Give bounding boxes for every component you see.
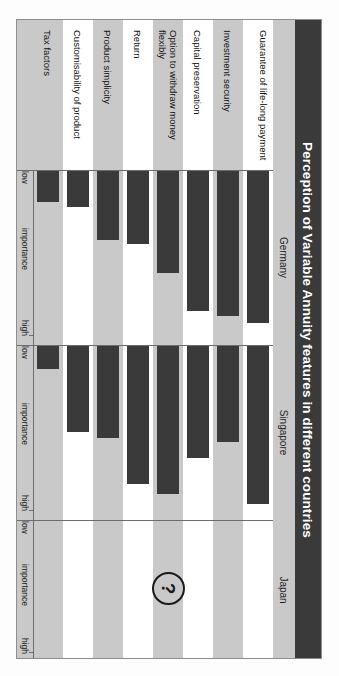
axis-caption-singapore: low importance high bbox=[16, 345, 30, 520]
bar-singapore-6 bbox=[67, 346, 89, 432]
axis-caption-germany: low importance high bbox=[16, 170, 30, 345]
panel-germany: low importance high bbox=[16, 170, 273, 345]
axis-label-high: high bbox=[20, 320, 30, 336]
bar-germany-3 bbox=[157, 171, 179, 273]
bar-singapore-0 bbox=[247, 346, 269, 504]
axis-label-low: low bbox=[20, 521, 30, 534]
axis-label-importance: importance bbox=[20, 228, 30, 270]
bar-germany-7 bbox=[37, 171, 59, 202]
axis-label-importance: importance bbox=[20, 403, 30, 445]
rotated-slide-wrapper: Perception of Variable Annuity features … bbox=[16, 19, 322, 659]
scan-page: Perception of Variable Annuity features … bbox=[0, 0, 339, 676]
panel-japan: ? low importance high bbox=[16, 520, 273, 659]
bar-singapore-4 bbox=[127, 346, 149, 484]
country-header-strip: Germany Singapore Japan bbox=[273, 170, 295, 659]
bar-singapore-1 bbox=[217, 346, 239, 442]
panel-separator bbox=[16, 345, 273, 346]
panel-baseline bbox=[33, 345, 34, 520]
chart-title-bar: Perception of Variable Annuity features … bbox=[295, 20, 321, 659]
panel-baseline bbox=[33, 170, 34, 345]
bar-singapore-2 bbox=[187, 346, 209, 458]
axis-label-high: high bbox=[20, 638, 30, 654]
category-label: Investment security bbox=[222, 30, 233, 166]
bar-singapore-3 bbox=[157, 346, 179, 494]
category-label: Guarantee of life-long payment bbox=[258, 30, 269, 166]
chart-body: Guarantee of life-long payment Investmen… bbox=[16, 20, 295, 659]
category-label: Product simplicity bbox=[102, 30, 113, 166]
bar-germany-0 bbox=[247, 171, 269, 323]
category-label: Tax factors bbox=[42, 30, 53, 166]
panel-title-singapore: Singapore bbox=[273, 345, 295, 520]
axis-label-low: low bbox=[20, 346, 30, 359]
panel-baseline bbox=[33, 520, 34, 659]
category-label: Option to withdraw money flexibly bbox=[157, 30, 179, 166]
category-label: Return bbox=[132, 30, 143, 166]
axis-label-high: high bbox=[20, 495, 30, 511]
panel-separator bbox=[16, 520, 273, 521]
slide: Perception of Variable Annuity features … bbox=[16, 19, 322, 659]
bar-singapore-5 bbox=[97, 346, 119, 438]
bar-germany-4 bbox=[127, 171, 149, 244]
panel-separator bbox=[16, 170, 273, 171]
category-label: Capital preservation bbox=[192, 30, 203, 166]
panel-title-germany: Germany bbox=[273, 170, 295, 345]
panel-title-japan: Japan bbox=[273, 520, 295, 659]
axis-caption-japan: low importance high bbox=[16, 520, 30, 659]
bar-germany-5 bbox=[97, 171, 119, 240]
axis-label-importance: importance bbox=[20, 564, 30, 606]
panel-singapore: low importance high bbox=[16, 345, 273, 520]
question-mark-label: ? bbox=[159, 583, 178, 595]
question-mark-badge: ? bbox=[152, 572, 185, 605]
bar-singapore-7 bbox=[37, 346, 59, 369]
page-title: Perception of Variable Annuity features … bbox=[301, 142, 316, 538]
category-label: Customisability of product bbox=[72, 30, 83, 166]
bar-germany-6 bbox=[67, 171, 89, 207]
bar-germany-1 bbox=[217, 171, 239, 316]
axis-label-low: low bbox=[20, 171, 30, 184]
bar-germany-2 bbox=[187, 171, 209, 311]
